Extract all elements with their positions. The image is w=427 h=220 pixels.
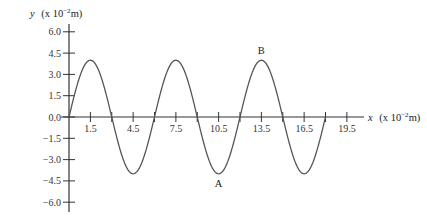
y-axis-label: y (x 10−2m) bbox=[29, 7, 83, 20]
y-tick-label: 6.0 bbox=[49, 26, 62, 37]
x-axis-ticks: 1.54.57.510.513.516.519.5 bbox=[84, 112, 356, 134]
x-tick-label: 7.5 bbox=[170, 123, 183, 134]
y-tick-label: 4.5 bbox=[49, 48, 62, 59]
y-tick-label: 0.0 bbox=[49, 112, 62, 123]
y-tick-label: −4.5 bbox=[43, 175, 61, 186]
x-axis-label: x (x 10−2m) bbox=[367, 111, 421, 124]
x-tick-label: 19.5 bbox=[338, 123, 356, 134]
x-tick-label: 10.5 bbox=[210, 123, 228, 134]
x-tick-label: 4.5 bbox=[127, 123, 140, 134]
x-tick-label: 13.5 bbox=[253, 123, 271, 134]
x-tick-label: 1.5 bbox=[84, 123, 97, 134]
point-label-b: B bbox=[258, 45, 265, 56]
y-tick-label: 3.0 bbox=[49, 69, 62, 80]
y-tick-label: −6.0 bbox=[43, 197, 61, 208]
y-tick-label: −3.0 bbox=[43, 154, 61, 165]
x-tick-label: 16.5 bbox=[295, 123, 313, 134]
wave-chart: 6.04.53.01.50.0−1.5−3.0−4.5−6.0 1.54.57.… bbox=[0, 0, 427, 220]
y-tick-label: 1.5 bbox=[49, 90, 62, 101]
y-tick-label: −1.5 bbox=[43, 133, 61, 144]
point-label-a: A bbox=[215, 178, 223, 189]
y-axis-ticks: 6.04.53.01.50.0−1.5−3.0−4.5−6.0 bbox=[43, 26, 75, 207]
